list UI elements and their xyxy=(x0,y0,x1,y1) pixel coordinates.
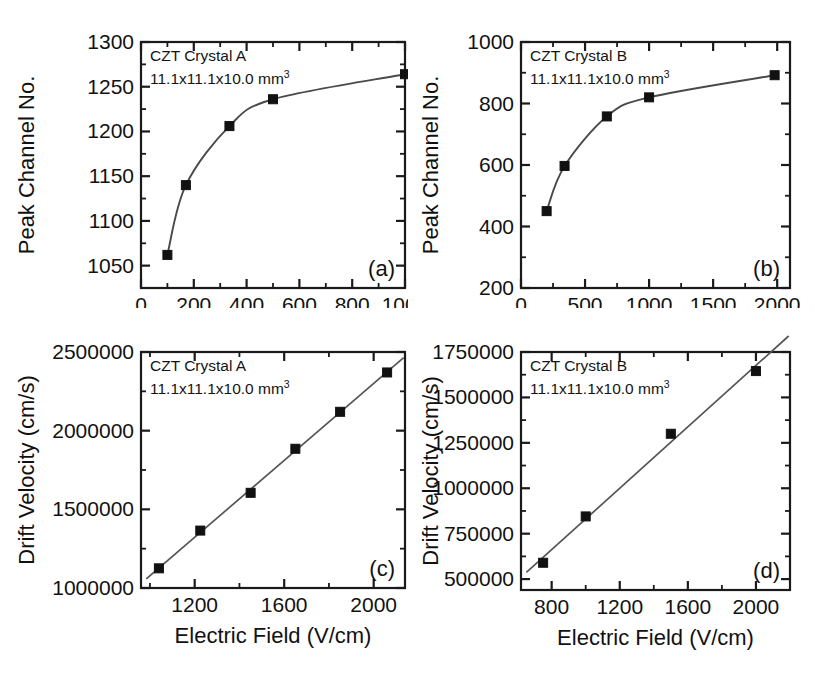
data-point-marker xyxy=(163,250,172,259)
data-point-marker xyxy=(751,367,760,376)
x-axis-title: Electric Field (V/cm) xyxy=(557,625,754,650)
data-point-marker xyxy=(196,526,205,535)
data-point-marker xyxy=(225,122,234,131)
y-tick-label: 1200 xyxy=(87,119,134,142)
x-tick-label: 400 xyxy=(229,293,264,308)
x-tick-label: 0 xyxy=(135,293,147,308)
y-tick-label: 1500000 xyxy=(52,497,134,520)
x-tick-label: 2000 xyxy=(350,593,397,616)
y-tick-label: 2500000 xyxy=(52,340,134,363)
panel-letter-label: (d) xyxy=(753,558,780,583)
y-tick-label: 1250000 xyxy=(432,431,514,454)
panel-c-drift-velocity-vs-field-crystal-a: 1200160020001000000150000020000002500000… xyxy=(0,308,408,681)
annotation-dimensions: 11.1x11.1x10.0 mm3 xyxy=(150,378,290,397)
panel-letter-label: (b) xyxy=(753,256,780,281)
x-tick-label: 800 xyxy=(534,595,569,618)
data-point-marker xyxy=(581,512,590,521)
annotation-dimensions: 11.1x11.1x10.0 mm3 xyxy=(530,68,670,87)
y-axis-title: Drift Velocity (cm/s) xyxy=(418,376,443,565)
y-tick-label: 400 xyxy=(479,215,514,238)
data-point-marker xyxy=(539,558,548,567)
x-tick-label: 500 xyxy=(568,293,603,308)
annotation-crystal-name: CZT Crystal B xyxy=(530,47,627,64)
y-axis-title: Drift Velocity (cm/s) xyxy=(14,375,39,564)
x-axis-title: Electric Field (V/cm) xyxy=(175,623,372,648)
x-tick-label: 0 xyxy=(515,293,527,308)
chart-d: 8001200160020005000007500001000000125000… xyxy=(408,308,814,681)
x-tick-label: 2000 xyxy=(754,293,801,308)
data-point-marker xyxy=(666,429,675,438)
annotation-crystal-name: CZT Crystal A xyxy=(150,47,247,64)
y-tick-label: 1100 xyxy=(89,209,134,232)
x-tick-label: 600 xyxy=(282,293,317,308)
x-tick-label: 200 xyxy=(176,293,211,308)
data-point-marker xyxy=(269,95,278,104)
data-point-marker xyxy=(336,407,345,416)
data-point-marker xyxy=(181,181,190,190)
y-tick-label: 1500000 xyxy=(432,385,514,408)
y-axis-title: Peak Channel No. xyxy=(418,76,443,255)
data-point-marker xyxy=(560,161,569,170)
panel-b-peak-channel-vs-bias-crystal-b: 05001000150020002004006008001000Bias (V)… xyxy=(408,0,814,308)
y-tick-label: 1050 xyxy=(87,254,134,277)
x-tick-label: 1600 xyxy=(261,593,308,616)
figure-canvas: 0200400600800100010501100115012001250130… xyxy=(0,0,814,681)
x-tick-label: 1600 xyxy=(664,595,711,618)
data-point-marker xyxy=(542,207,551,216)
y-tick-label: 600 xyxy=(479,153,514,176)
y-tick-label: 1250 xyxy=(87,75,134,98)
data-point-marker xyxy=(770,71,779,80)
chart-a: 0200400600800100010501100115012001250130… xyxy=(0,0,408,308)
y-tick-label: 1000000 xyxy=(432,476,514,499)
data-point-marker xyxy=(246,488,255,497)
y-tick-label: 800 xyxy=(479,92,514,115)
panel-a-peak-channel-vs-bias-crystal-a: 0200400600800100010501100115012001250130… xyxy=(0,0,408,308)
x-tick-label: 1500 xyxy=(690,293,737,308)
annotation-crystal-name: CZT Crystal A xyxy=(150,357,247,374)
data-point-marker xyxy=(291,444,300,453)
x-tick-label: 1000 xyxy=(382,293,408,308)
y-tick-label: 1300 xyxy=(87,30,134,53)
chart-c: 1200160020001000000150000020000002500000… xyxy=(0,308,408,681)
y-axis-title: Peak Channel No. xyxy=(14,76,39,255)
data-point-marker xyxy=(645,93,654,102)
x-tick-label: 800 xyxy=(335,293,370,308)
data-point-marker xyxy=(602,112,611,121)
annotation-dimensions: 11.1x11.1x10.0 mm3 xyxy=(150,68,290,87)
data-point-marker xyxy=(154,564,163,573)
y-tick-label: 1000000 xyxy=(52,576,134,599)
y-tick-label: 500000 xyxy=(444,567,514,590)
data-point-marker xyxy=(401,70,409,79)
x-tick-label: 1000 xyxy=(626,293,673,308)
annotation-crystal-name: CZT Crystal B xyxy=(530,357,627,374)
y-tick-label: 1000 xyxy=(467,30,514,53)
y-tick-label: 2000000 xyxy=(52,419,134,442)
y-tick-label: 200 xyxy=(479,276,514,299)
chart-b: 05001000150020002004006008001000Bias (V)… xyxy=(408,0,814,308)
data-point-marker xyxy=(383,368,392,377)
data-curve xyxy=(547,75,775,211)
panel-d-drift-velocity-vs-field-crystal-b: 8001200160020005000007500001000000125000… xyxy=(408,308,814,681)
y-tick-label: 1750000 xyxy=(432,340,514,363)
x-tick-label: 2000 xyxy=(733,595,780,618)
panel-letter-label: (a) xyxy=(368,256,395,281)
x-tick-label: 1200 xyxy=(596,595,643,618)
y-tick-label: 1150 xyxy=(89,164,134,187)
x-tick-label: 1200 xyxy=(171,593,218,616)
annotation-dimensions: 11.1x11.1x10.0 mm3 xyxy=(530,378,670,397)
data-curve xyxy=(167,74,405,255)
y-tick-label: 750000 xyxy=(444,522,514,545)
panel-letter-label: (c) xyxy=(369,556,395,581)
